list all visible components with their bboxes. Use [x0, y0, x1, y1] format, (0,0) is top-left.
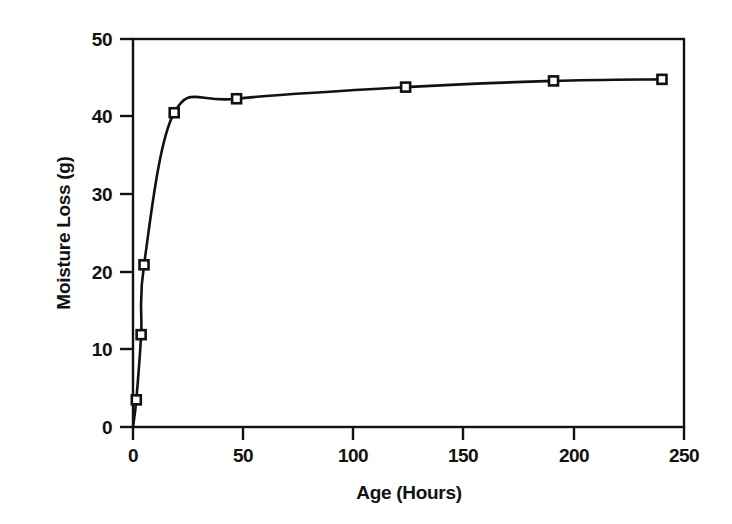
data-point-marker	[170, 108, 179, 117]
plot-border	[133, 39, 684, 427]
y-tick-labels: 0 10 20 30 40 50	[92, 29, 112, 438]
x-tick-label-200: 200	[559, 445, 589, 466]
series-markers	[132, 75, 667, 404]
data-point-marker	[137, 330, 146, 339]
y-axis-title: Moisture Loss (g)	[53, 156, 74, 309]
y-tick-label-50: 50	[92, 29, 112, 50]
x-axis-title: Age (Hours)	[356, 482, 461, 503]
data-point-marker	[549, 76, 558, 85]
data-point-marker	[140, 260, 149, 269]
y-tick-label-40: 40	[92, 106, 112, 127]
data-point-marker	[132, 395, 141, 404]
data-point-marker	[657, 75, 666, 84]
plot-frame	[133, 39, 684, 427]
x-tick-label-150: 150	[448, 445, 478, 466]
data-point-marker	[401, 83, 410, 92]
x-tick-label-250: 250	[669, 445, 699, 466]
moisture-loss-line-chart: 0 50 100 150 200 250 0 10 20 30 40 50 Ag…	[0, 0, 732, 524]
data-series-moisture-loss	[132, 75, 667, 427]
x-tick-label-50: 50	[233, 445, 253, 466]
y-tick-label-10: 10	[92, 339, 112, 360]
series-line-path	[133, 79, 662, 427]
x-tick-labels: 0 50 100 150 200 250	[128, 445, 699, 466]
x-axis-ticks	[133, 427, 684, 440]
y-tick-label-20: 20	[92, 262, 112, 283]
x-tick-label-0: 0	[128, 445, 138, 466]
y-tick-label-30: 30	[92, 184, 112, 205]
y-tick-label-0: 0	[102, 417, 112, 438]
chart-figure: 0 50 100 150 200 250 0 10 20 30 40 50 Ag…	[0, 0, 732, 524]
y-axis-ticks	[120, 39, 133, 427]
x-tick-label-100: 100	[338, 445, 368, 466]
data-point-marker	[232, 94, 241, 103]
